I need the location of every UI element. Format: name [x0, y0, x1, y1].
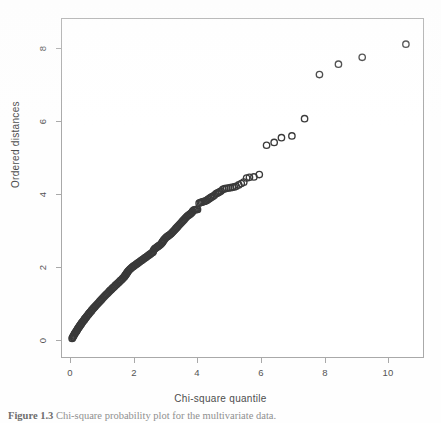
x-tick-label-4: 4: [194, 367, 199, 378]
figure-caption-label: Figure 1.3: [8, 410, 53, 421]
y-tick-mark-8: [56, 48, 61, 49]
scatter-plot-canvas: [62, 19, 423, 357]
x-tick-mark-4: [197, 358, 198, 363]
x-tick-mark-10: [388, 358, 389, 363]
y-axis-title: Ordered distances: [10, 174, 21, 188]
x-axis-title: Chi-square quantile: [0, 393, 441, 404]
figure-caption: Figure 1.3 Chi-square probability plot f…: [8, 410, 438, 422]
y-tick-label-4: 4: [37, 188, 48, 202]
x-tick-label-8: 8: [322, 367, 327, 378]
x-tick-label-6: 6: [258, 367, 263, 378]
y-tick-label-8: 8: [37, 42, 48, 56]
x-tick-mark-0: [70, 358, 71, 363]
plot-frame: [61, 18, 424, 358]
x-tick-mark-2: [134, 358, 135, 363]
x-tick-label-0: 0: [67, 367, 72, 378]
y-tick-label-2: 2: [37, 261, 48, 275]
y-tick-mark-6: [56, 121, 61, 122]
y-tick-mark-2: [56, 267, 61, 268]
y-tick-label-6: 6: [37, 115, 48, 129]
x-tick-mark-6: [261, 358, 262, 363]
x-tick-label-10: 10: [383, 367, 394, 378]
x-tick-mark-8: [325, 358, 326, 363]
figure-caption-text: Chi-square probability plot for the mult…: [56, 410, 276, 421]
y-tick-label-0: 0: [37, 334, 48, 348]
figure-root: 0 2 4 6 8 10 0 2 4 6 8 Chi-square quanti…: [0, 0, 441, 423]
y-tick-mark-0: [56, 340, 61, 341]
y-tick-mark-4: [56, 194, 61, 195]
x-tick-label-2: 2: [131, 367, 136, 378]
